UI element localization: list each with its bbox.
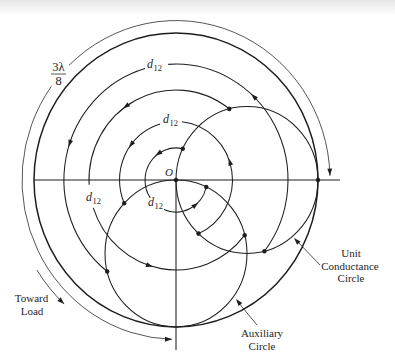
direction-label-line-1: Toward [15, 292, 49, 304]
point [204, 185, 208, 190]
rotation-denominator: 8 [55, 74, 61, 88]
origin-point [174, 178, 178, 183]
matched-point [316, 178, 320, 183]
callout-line: Unit [341, 247, 361, 259]
background [0, 0, 395, 364]
point [243, 233, 247, 238]
distance-subscript: 12 [154, 63, 163, 73]
point [105, 269, 109, 274]
point [262, 249, 266, 254]
rotation-numerator: 3λ [52, 60, 64, 74]
scan-shading [0, 0, 395, 16]
double-stub-smith-chart-diagram: 3λ 8 d 12 d 12 d 12 d 12 O Toward Load U… [0, 0, 395, 364]
distance-subscript: 12 [155, 201, 164, 211]
direction-label-line-2: Load [21, 305, 44, 317]
point [196, 231, 200, 236]
origin-label: O [165, 166, 173, 178]
callout-line: Auxiliary [241, 327, 284, 339]
distance-subscript: 12 [93, 196, 102, 206]
callout-line: Circle [338, 272, 365, 284]
point [181, 146, 185, 151]
distance-subscript: 12 [170, 118, 179, 128]
callout-line: Conductance [321, 260, 379, 272]
point [122, 201, 126, 206]
callout-line: Circle [249, 340, 276, 352]
point [227, 107, 231, 112]
